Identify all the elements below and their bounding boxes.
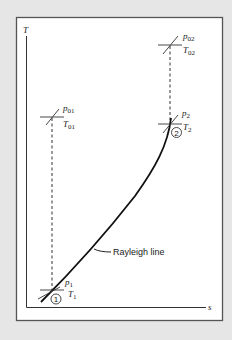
rayleigh-line-label: Rayleigh line xyxy=(113,247,165,257)
x-axis-label: s xyxy=(208,302,212,312)
diagram-panel xyxy=(17,18,223,321)
ts-diagram: T s Rayleigh line p01 T01 p02 T02 p2 T2 … xyxy=(0,0,232,340)
state-1-number: 1 xyxy=(54,295,59,304)
state-2-number: 2 xyxy=(174,129,179,138)
